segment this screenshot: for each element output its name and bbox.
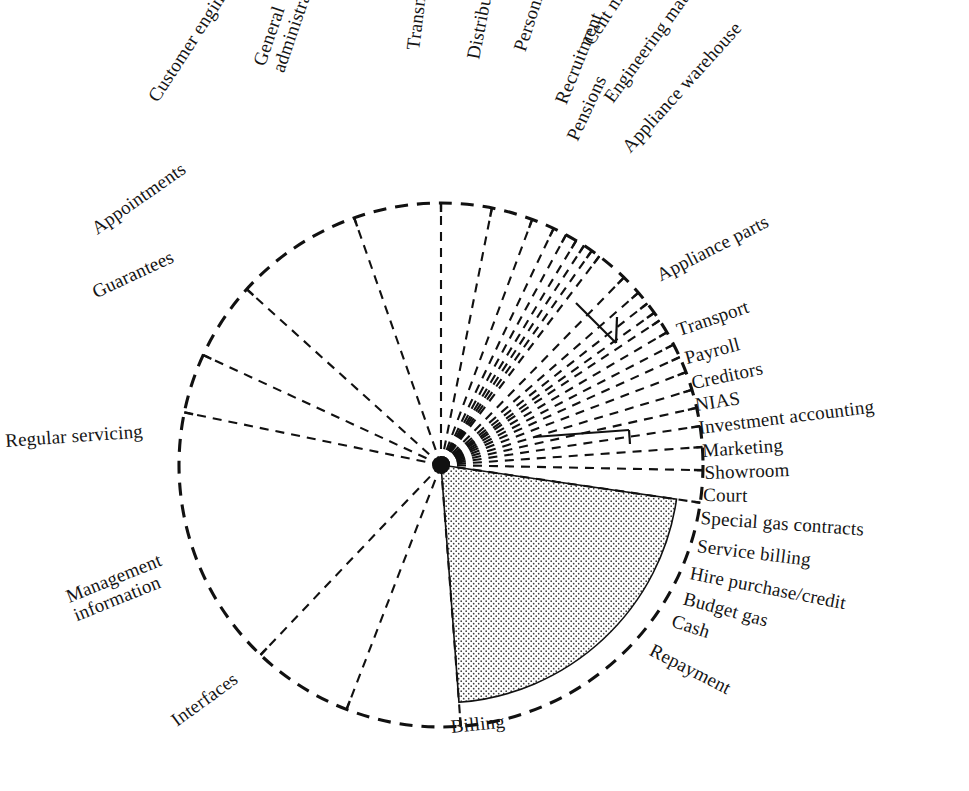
sector-rim-tick xyxy=(618,277,624,283)
sector-rim-tick xyxy=(203,355,211,359)
sector-divider-spoke xyxy=(441,277,624,465)
sector-rim-tick xyxy=(659,332,667,337)
sector-rim-tick xyxy=(594,256,599,263)
sector-rim-tick xyxy=(587,251,592,258)
sector-divider-spoke xyxy=(441,332,667,465)
chart-canvas: General administrators Customer engineer… xyxy=(0,0,969,791)
sector-rim-tick xyxy=(247,289,254,295)
sector-divider-spoke xyxy=(441,235,566,465)
sector-divider-spoke xyxy=(441,465,703,470)
sector-rim-tick xyxy=(678,372,686,375)
sector-rim-tick xyxy=(572,241,577,249)
sector-divider-spoke xyxy=(184,412,441,465)
sector-rim-tick xyxy=(347,701,350,709)
sector-rim-tick xyxy=(652,320,660,325)
sector-divider-spoke xyxy=(261,465,441,655)
sector-rim-tick xyxy=(261,648,267,655)
hub-convergence-point xyxy=(432,456,450,474)
pie-sectors xyxy=(441,465,677,702)
sector-rim-tick xyxy=(683,390,692,393)
sector-rim-tick xyxy=(579,246,584,254)
sector-divider-spoke xyxy=(347,465,441,709)
sector-divider-spoke xyxy=(441,313,654,465)
fan-diagram-svg xyxy=(0,0,969,791)
sector-divider-spoke xyxy=(441,208,492,465)
sector-divider-spoke xyxy=(441,320,660,465)
sector-rim-tick xyxy=(562,235,566,243)
label-court: Court xyxy=(703,484,748,507)
sector-divider-spoke xyxy=(441,246,584,465)
label-showroom: Showroom xyxy=(704,459,790,484)
sector-divider-spoke xyxy=(354,218,441,465)
sector-rim-tick xyxy=(647,313,654,318)
sector-rim-tick xyxy=(354,218,357,226)
sector-divider-spokes xyxy=(184,203,703,726)
sector-rim-tick xyxy=(640,303,647,309)
sector-rim-tick xyxy=(490,208,492,217)
sector-rim-tick xyxy=(184,412,193,414)
sector-rim-tick xyxy=(550,228,554,236)
sector-divider-spoke xyxy=(441,251,592,465)
sector-divider-spoke xyxy=(203,355,441,465)
sector-rim-tick xyxy=(691,501,700,502)
sector-rim-tick xyxy=(666,345,674,349)
sector-rim-tick xyxy=(672,357,680,361)
sector-divider-spoke xyxy=(441,219,532,465)
sector-divider-spoke xyxy=(247,289,441,465)
pie-sector-billing xyxy=(441,465,677,702)
sector-rim-tick xyxy=(529,219,532,227)
sector-rim-tick xyxy=(632,293,639,299)
